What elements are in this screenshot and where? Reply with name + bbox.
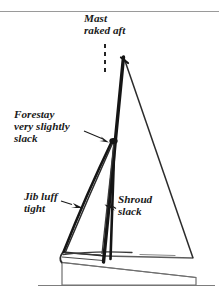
label-jib-line2: tight (24, 202, 46, 214)
label-forestay-line3: slack (13, 132, 38, 144)
label-forestay-line1: Forestay (13, 108, 54, 120)
label-mast-line2: raked aft (84, 24, 126, 36)
label-jib-line1: Jib luff (23, 190, 59, 202)
label-forestay-line2: very slightly (14, 120, 70, 132)
label-shroud-line2: slack (117, 205, 142, 217)
rig-diagram-svg: Mast raked aft Forestay very slightly sl… (0, 0, 219, 299)
rig-diagram-figure: Mast raked aft Forestay very slightly sl… (0, 0, 219, 299)
label-mast-line1: Mast (83, 12, 108, 24)
label-shroud-line1: Shroud (118, 193, 153, 205)
hounds-junction (109, 138, 117, 144)
